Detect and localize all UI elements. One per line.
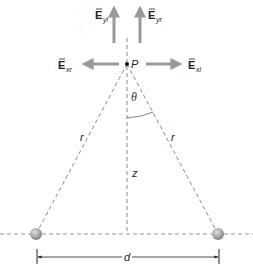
- r-label-right: r: [171, 131, 176, 143]
- svg-text:xl: xl: [195, 66, 202, 73]
- svg-text:E: E: [188, 59, 195, 71]
- theta-arc: [127, 112, 153, 118]
- theta-label: θ: [131, 90, 137, 104]
- svg-text:xr: xr: [65, 66, 73, 73]
- point-p: [125, 62, 129, 66]
- svg-text:yl: yl: [102, 16, 109, 24]
- r-line-left: [36, 64, 127, 234]
- svg-text:E: E: [95, 9, 102, 21]
- r-label-left: r: [80, 131, 85, 143]
- d-label: d: [124, 251, 131, 263]
- label-e-xl: E xl: [188, 59, 202, 73]
- svg-text:E: E: [58, 59, 65, 71]
- label-e-xr: E xr: [58, 59, 73, 73]
- charge-right: [212, 228, 224, 240]
- diagram-canvas: P E yl E yr E xr E xl θ r r z d: [0, 0, 253, 264]
- label-e-yr: E yr: [148, 9, 163, 24]
- point-p-label: P: [131, 58, 139, 70]
- svg-text:yr: yr: [155, 16, 163, 24]
- r-line-right: [127, 64, 218, 234]
- charge-left: [30, 228, 42, 240]
- z-label: z: [131, 167, 138, 179]
- label-e-yl: E yl: [95, 9, 109, 24]
- svg-text:E: E: [148, 9, 155, 21]
